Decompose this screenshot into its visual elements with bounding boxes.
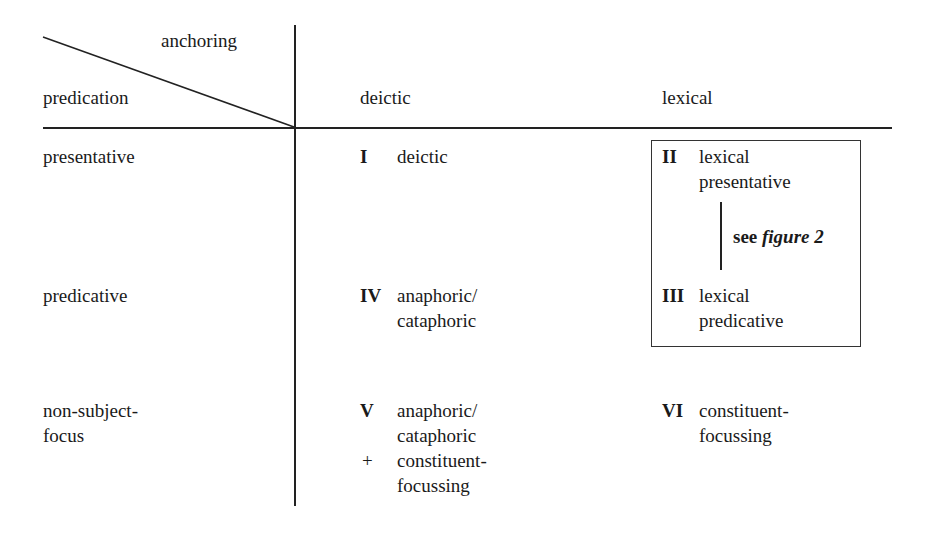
see-figure-note: see figure 2 — [733, 224, 824, 249]
row-label-non-subject-focus: non-subject- focus — [43, 398, 138, 448]
box-connector-line — [720, 202, 722, 270]
column-header-deictic: deictic — [360, 85, 411, 110]
row-label-presentative: presentative — [43, 144, 135, 169]
column-header-lexical: lexical — [662, 85, 713, 110]
plus-marker: + — [362, 448, 373, 473]
row-axis-label: predication — [43, 85, 128, 110]
column-axis-label: anchoring — [161, 28, 237, 53]
row-label-predicative: predicative — [43, 283, 127, 308]
